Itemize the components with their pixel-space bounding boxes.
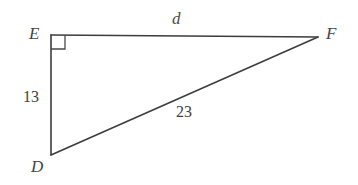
side-label-ed: 13 [23, 89, 39, 105]
vertex-label-e: E [29, 25, 39, 42]
side-ef-line [51, 35, 318, 37]
side-label-df: 23 [176, 104, 192, 120]
side-df-hypotenuse-line [51, 37, 318, 155]
geometry-figure: E F D d 13 23 [0, 0, 358, 185]
vertex-label-f: F [326, 25, 336, 42]
side-label-ef: d [172, 10, 181, 27]
vertex-label-d: D [31, 158, 43, 175]
right-angle-marker-icon [51, 35, 65, 49]
